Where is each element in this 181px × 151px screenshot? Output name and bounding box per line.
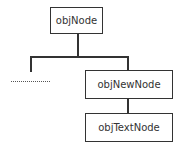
connector-right-branch <box>127 56 129 70</box>
node-label: objNode <box>56 15 97 26</box>
node-label: objTextNode <box>98 122 160 133</box>
connector-root-down <box>77 34 79 57</box>
ellipsis-sibling-nodes <box>11 81 50 82</box>
node-objNode: objNode <box>50 7 103 34</box>
node-objNewNode: objNewNode <box>85 70 173 99</box>
node-objTextNode: objTextNode <box>85 113 173 142</box>
node-label: objNewNode <box>97 79 160 90</box>
connector-horizontal <box>30 56 129 58</box>
connector-new-to-text <box>127 99 129 113</box>
connector-left-branch <box>30 56 32 72</box>
